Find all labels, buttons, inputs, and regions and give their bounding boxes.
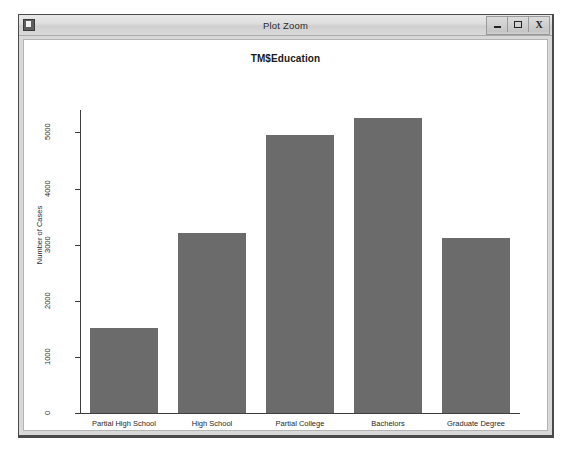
y-axis-line: [80, 110, 81, 413]
close-button[interactable]: X: [529, 17, 549, 32]
y-tick-label: 0: [24, 399, 71, 427]
x-tick-label: Bachelors: [371, 419, 404, 428]
minimize-icon: [494, 26, 501, 28]
y-tick-label: 2000: [24, 287, 71, 315]
bar: [178, 233, 247, 413]
y-tick-label: 3000: [24, 231, 71, 259]
y-tick-label: 4000: [24, 175, 71, 203]
bar: [442, 238, 511, 413]
y-tick-mark: [75, 301, 80, 302]
plot-canvas: TM$Education Number of Cases 01000200030…: [23, 39, 548, 431]
bar: [354, 118, 423, 413]
window-title: Plot Zoom: [19, 20, 552, 31]
maximize-icon: [514, 21, 522, 28]
x-tick-label: Partial College: [276, 419, 325, 428]
y-tick-mark: [75, 245, 80, 246]
bar: [266, 135, 335, 413]
minimize-button[interactable]: [487, 17, 508, 32]
bar: [90, 328, 159, 413]
y-tick-label: 5000: [24, 118, 71, 146]
x-tick-label: Graduate Degree: [447, 419, 505, 428]
y-tick-mark: [75, 357, 80, 358]
y-tick-mark: [75, 132, 80, 133]
maximize-button[interactable]: [508, 17, 529, 32]
window-titlebar[interactable]: Plot Zoom X: [19, 15, 552, 36]
plot-zoom-window: Plot Zoom X TM$Education Number of Cases…: [18, 14, 554, 438]
x-tick-label: Partial High School: [92, 419, 156, 428]
y-tick-mark: [75, 413, 80, 414]
close-icon: X: [535, 20, 542, 30]
y-tick-label: 1000: [24, 343, 71, 371]
y-tick-mark: [75, 189, 80, 190]
chart-title: TM$Education: [24, 53, 547, 64]
app-icon: [23, 19, 35, 31]
window-controls: X: [486, 16, 550, 35]
x-tick-label: High School: [192, 419, 232, 428]
x-axis-line: [80, 413, 520, 414]
